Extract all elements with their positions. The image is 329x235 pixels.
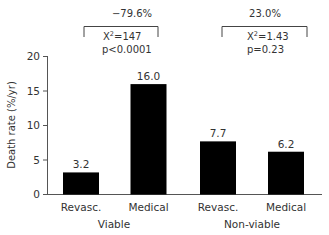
x-tick-label: Medical (266, 201, 306, 213)
chi-square-viable: X2=147 (103, 30, 141, 42)
percent-change-non-viable: 23.0% (249, 8, 281, 19)
annotation-non-viable: 23.0% X2=1.43 p=0.23 (222, 8, 307, 55)
bar-chart: Death rate (%/yr) 05101520 3.216.07.76.2… (0, 0, 329, 235)
group-label-viable: Viable (98, 218, 130, 230)
bar-viable-revasc (63, 172, 99, 194)
bar-non-viable-medical (268, 152, 304, 195)
chi-square-non-viable: X2=1.43 (247, 30, 289, 42)
p-value-viable: p<0.0001 (102, 44, 152, 55)
value-label: 6.2 (278, 138, 295, 150)
p-value-non-viable: p=0.23 (247, 44, 284, 55)
y-tick-label: 5 (33, 154, 40, 166)
bars (63, 84, 304, 194)
value-label: 16.0 (137, 70, 160, 82)
annotation-viable: −79.6% X2=147 p<0.0001 (84, 8, 158, 55)
y-tick-label: 15 (27, 85, 40, 97)
y-tick-label: 0 (33, 188, 40, 200)
group-label-non-viable: Non-viable (224, 218, 280, 230)
bar-viable-medical (131, 84, 167, 194)
y-tick-label: 20 (27, 50, 40, 62)
y-tick-label: 10 (27, 119, 40, 131)
y-ticks: 05101520 (27, 50, 48, 200)
x-tick-labels: Revasc.MedicalRevasc.Medical (61, 201, 306, 213)
x-tick-label: Revasc. (198, 201, 239, 213)
x-tick-label: Medical (128, 201, 168, 213)
x-tick-label: Revasc. (61, 201, 102, 213)
value-label: 3.2 (73, 158, 90, 170)
y-axis-label: Death rate (%/yr) (6, 81, 17, 169)
percent-change-viable: −79.6% (112, 8, 152, 19)
value-label: 7.7 (210, 127, 227, 139)
bar-non-viable-revasc (200, 141, 236, 194)
value-labels: 3.216.07.76.2 (73, 70, 295, 170)
